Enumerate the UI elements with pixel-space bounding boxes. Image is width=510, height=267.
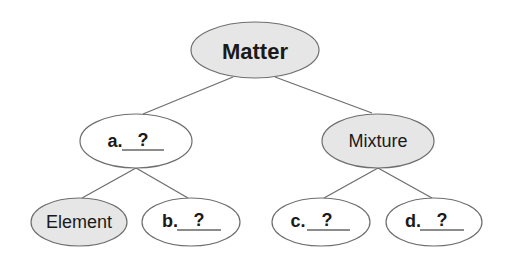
node-d-answer: ?	[437, 210, 448, 230]
node-element-label: Element	[46, 212, 112, 232]
node-a: a. ?	[80, 114, 192, 168]
node-b-answer: ?	[194, 210, 205, 230]
node-b-ellipse	[142, 198, 240, 246]
matter-concept-map: Matter a. ? Mixture Element b. ? c. ? d.…	[0, 0, 510, 267]
node-d: d. ?	[386, 198, 482, 246]
node-b: b. ?	[142, 198, 240, 246]
node-c: c. ?	[272, 198, 370, 246]
node-c-answer: ?	[322, 210, 333, 230]
node-d-ellipse	[386, 198, 482, 246]
edge-matter-to-mixture	[275, 77, 372, 113]
node-b-prefix: b.	[162, 211, 178, 231]
node-mixture: Mixture	[322, 114, 434, 168]
node-a-answer: ?	[138, 130, 149, 150]
edge-a-to-b	[136, 168, 188, 198]
node-mixture-label: Mixture	[348, 131, 407, 151]
node-matter: Matter	[191, 22, 319, 78]
node-c-prefix: c.	[290, 211, 305, 231]
node-a-prefix: a.	[107, 131, 122, 151]
node-a-ellipse	[80, 114, 192, 168]
node-d-prefix: d.	[405, 211, 421, 231]
edge-mixture-to-c	[324, 168, 378, 198]
node-element: Element	[31, 198, 127, 246]
edge-matter-to-a	[143, 77, 233, 114]
edge-a-to-element	[82, 168, 136, 198]
edge-mixture-to-d	[378, 168, 432, 198]
node-matter-label: Matter	[222, 39, 288, 64]
